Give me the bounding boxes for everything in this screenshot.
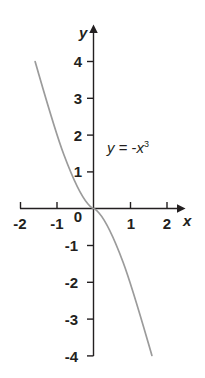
x-tick-label-2: 2 xyxy=(154,216,180,231)
origin-label: 0 xyxy=(56,209,82,224)
y-tick-label-4: 4 xyxy=(56,54,82,69)
y-tick-label-2: 2 xyxy=(56,128,82,143)
y-tick-label--4: -4 xyxy=(52,349,78,364)
y-tick-label--3: -3 xyxy=(52,312,78,327)
cubic-function-graph-figure: .... xyxy=(0,0,205,378)
y-axis-name: y xyxy=(79,25,87,40)
x-tick-label--2: -2 xyxy=(7,216,33,231)
equation-exponent: 3 xyxy=(144,139,149,149)
x-axis-name: x xyxy=(183,213,191,228)
y-tick-label-3: 3 xyxy=(56,91,82,106)
x-tick-label-1: 1 xyxy=(118,216,144,231)
plot-canvas xyxy=(0,0,205,378)
y-tick-label-1: 1 xyxy=(56,164,82,179)
equation-lhs: y xyxy=(107,139,115,156)
y-tick-label--2: -2 xyxy=(52,275,78,290)
y-tick-label--1: -1 xyxy=(52,238,78,253)
equation-rhs-variable: x xyxy=(137,139,145,156)
equation-annotation: y = -x3 xyxy=(107,140,149,155)
